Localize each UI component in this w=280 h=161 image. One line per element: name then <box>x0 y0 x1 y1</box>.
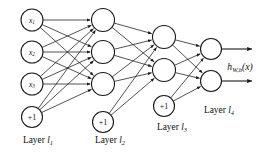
neuron-circle <box>92 41 115 64</box>
connection-edge <box>109 47 156 113</box>
neuron-circle <box>153 26 176 49</box>
bias-label: +1 <box>160 102 169 111</box>
neuron-circle <box>92 9 115 32</box>
bias-node-bias-3[interactable]: +1 <box>154 96 175 117</box>
connection-edge <box>114 23 152 34</box>
connection-edge <box>173 86 200 101</box>
connection-edge <box>42 57 91 79</box>
nodes-group: x1x2x3+1+1+1 <box>21 9 222 133</box>
layer-label-layer-1: Layer l1 <box>23 135 53 146</box>
connection-edge <box>114 40 152 49</box>
neuron-node-a21[interactable] <box>92 9 115 32</box>
neuron-circle <box>201 71 222 92</box>
neuron-node-x1[interactable]: x1 <box>21 9 43 31</box>
neuron-node-x2[interactable]: x2 <box>21 41 43 63</box>
neuron-node-o1[interactable] <box>201 39 222 60</box>
layer-label-layer-3: Layer l3 <box>157 122 187 133</box>
bias-label: +1 <box>99 118 108 127</box>
neural-network-svg: x1x2x3+1+1+1 hW,b(x)Layer l1Layer l2Laye… <box>0 0 280 161</box>
bias-node-bias-1[interactable]: +1 <box>22 107 43 128</box>
neuron-node-o2[interactable] <box>201 71 222 92</box>
connection-edge <box>172 45 202 73</box>
neuron-node-a32[interactable] <box>153 59 176 82</box>
neuron-node-a22[interactable] <box>92 41 115 64</box>
neuron-node-a23[interactable] <box>92 73 115 96</box>
neuron-node-x3[interactable]: x3 <box>21 73 43 95</box>
connection-edge <box>175 54 201 66</box>
connection-edge <box>112 45 154 77</box>
connection-edge <box>42 25 91 47</box>
connection-edge <box>111 78 154 115</box>
neuron-node-a31[interactable] <box>153 26 176 49</box>
bias-node-bias-2[interactable]: +1 <box>93 112 114 133</box>
output-label: hW,b(x) <box>227 61 252 73</box>
neuron-circle <box>201 39 222 60</box>
connection-edge <box>175 40 200 46</box>
neuron-circle <box>153 59 176 82</box>
neuron-circle <box>92 73 115 96</box>
edges-group <box>38 20 203 115</box>
layer-label-layer-4: Layer l4 <box>204 105 235 116</box>
layer-label-layer-2: Layer l2 <box>95 135 126 146</box>
neural-network-diagram: x1x2x3+1+1+1 hW,b(x)Layer l1Layer l2Laye… <box>0 0 280 161</box>
bias-label: +1 <box>28 113 37 122</box>
